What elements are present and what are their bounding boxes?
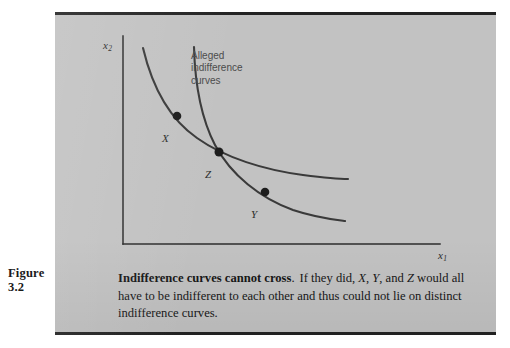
figure-number: Figure 3.2	[8, 266, 54, 294]
caption-body-1: If they did,	[300, 271, 359, 285]
point-label-Z: Z	[205, 169, 211, 180]
annotation-line-1: Alleged	[191, 50, 243, 62]
indifference-curve-plot: x2 x1 X Z Y Alleged indifference curves	[55, 12, 496, 262]
caption-point-X: X	[358, 271, 366, 285]
point-Y-marker	[261, 188, 270, 197]
annotation-line-3: curves	[191, 75, 243, 87]
point-label-Y: Y	[251, 209, 257, 220]
point-X-marker	[173, 112, 182, 121]
plot-axes	[123, 36, 440, 244]
figure-number-line-1: Figure	[8, 266, 54, 280]
point-Z-marker	[215, 148, 224, 157]
y-axis-label: x2	[103, 40, 112, 52]
x-axis-label: x1	[438, 250, 447, 262]
caption-sep-2: , and	[379, 271, 407, 285]
figure-panel: x2 x1 X Z Y Alleged indifference curves …	[55, 12, 496, 335]
alleged-indifference-curves-annotation: Alleged indifference curves	[191, 50, 243, 87]
figure-number-line-2: 3.2	[8, 280, 54, 294]
annotation-line-2: indifference	[191, 62, 243, 74]
figure-caption: Indifference curves cannot cross.If they…	[118, 270, 478, 323]
point-label-X: X	[162, 133, 169, 144]
caption-point-Z: Z	[407, 271, 414, 285]
caption-lead: Indifference curves cannot cross	[118, 271, 291, 285]
caption-lead-period: .	[291, 271, 294, 285]
panel-bottom-rule	[55, 332, 496, 335]
